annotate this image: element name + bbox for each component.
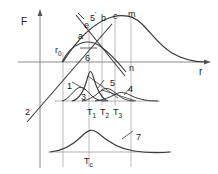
curve-label-3: 3: [81, 93, 86, 102]
curve-label-5: 5: [110, 79, 115, 88]
curve-label-7: 7: [136, 133, 141, 142]
x-axis-arrow: [204, 60, 211, 65]
figure-container: F r r0 a e 5' b c m n 2 6 1 3 5 4 7 T1 T…: [0, 0, 218, 174]
tick-label-Tc: Tc: [84, 157, 93, 168]
curve-label-2: 2: [25, 108, 30, 117]
tick-label-T2: T2: [100, 108, 109, 119]
curve-7-bell: [50, 130, 170, 152]
y-axis-label: F: [21, 17, 27, 26]
curve-label-1: 1: [67, 82, 72, 91]
point-label-e: e: [84, 21, 89, 30]
point-label-b: b: [101, 14, 106, 23]
point-label-a: a: [78, 32, 83, 41]
curve-label-5-prime: 5': [90, 11, 96, 23]
tick-label-T3: T3: [113, 108, 122, 119]
curve-label-4: 4: [128, 85, 133, 94]
y-axis-arrow: [38, 9, 43, 16]
curve-1-leader: [72, 82, 86, 90]
point-label-m: m: [128, 10, 136, 19]
figure-drawing: [0, 0, 218, 174]
point-label-r0: r0: [55, 46, 62, 57]
curve-6-arch: [62, 42, 126, 72]
point-label-n: n: [129, 64, 134, 73]
curve-label-6: 6: [85, 54, 90, 63]
x-axis-label: r: [199, 67, 202, 76]
point-label-c: c: [113, 12, 118, 21]
tick-label-T1: T1: [87, 108, 96, 119]
